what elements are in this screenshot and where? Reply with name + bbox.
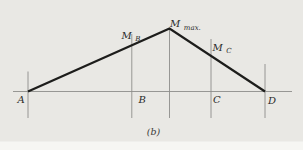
point-label-b: B [138,94,146,105]
point-label-d: D [267,95,276,106]
moment-diagram-canvas: A B C D M B M max. M C (b) [0,0,303,150]
point-label-a: A [17,94,25,105]
moment-diagram-figure: A B C D M B M max. M C (b) [0,0,303,150]
point-label-c: C [213,94,221,105]
page-margin-strip [0,142,303,151]
figure-caption: (b) [147,126,161,137]
